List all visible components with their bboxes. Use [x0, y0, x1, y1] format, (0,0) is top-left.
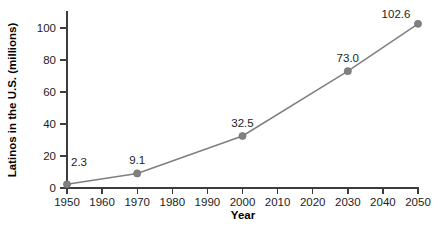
y-tick-label: 100 — [37, 22, 56, 34]
latino-population-line-chart: 020406080100 Latinos in the U.S. (millio… — [0, 0, 447, 239]
series-point-label: 102.6 — [382, 8, 411, 20]
x-tick-label: 2040 — [370, 196, 396, 208]
series-point-label: 9.1 — [129, 154, 145, 166]
x-tick-label: 2000 — [230, 196, 256, 208]
x-tick-label: 1970 — [124, 196, 150, 208]
series-marker — [344, 68, 351, 75]
y-tick-label: 20 — [43, 150, 56, 162]
chart-canvas: 020406080100 Latinos in the U.S. (millio… — [0, 0, 447, 239]
x-tick-label: 2010 — [265, 196, 291, 208]
series-point-label: 2.3 — [71, 156, 87, 168]
y-axis-title: Latinos in the U.S. (millions) — [6, 23, 18, 178]
x-tick-label: 1990 — [195, 196, 221, 208]
y-tick-label: 40 — [43, 118, 56, 130]
series-marker — [239, 132, 246, 139]
x-tick-label: 1960 — [89, 196, 115, 208]
series-marker — [63, 181, 70, 188]
series-point-label: 73.0 — [337, 52, 359, 64]
series-marker — [134, 170, 141, 177]
x-tick-label: 1980 — [160, 196, 186, 208]
y-tick-label: 60 — [43, 86, 56, 98]
x-axis-title: Year — [231, 209, 256, 221]
series-marker — [414, 20, 421, 27]
y-tick-label: 0 — [50, 182, 56, 194]
x-tick-label: 1950 — [54, 196, 80, 208]
y-tick-label: 80 — [43, 54, 56, 66]
x-axis-tick-labels: 1950196019701980199020002010202020302040… — [54, 196, 431, 208]
x-tick-label: 2030 — [335, 196, 361, 208]
x-tick-label: 2020 — [300, 196, 326, 208]
x-tick-label: 2050 — [405, 196, 431, 208]
series-point-label: 32.5 — [231, 117, 253, 129]
